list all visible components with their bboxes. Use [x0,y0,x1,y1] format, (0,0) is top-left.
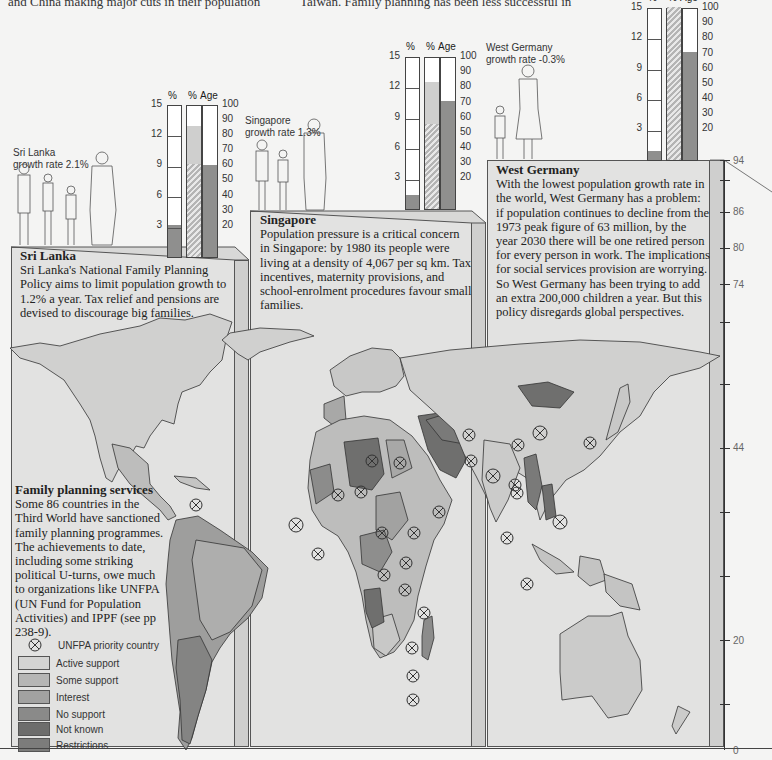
tick-20: 20 [460,171,471,182]
swatch [18,673,50,687]
tick-60: 60 [222,158,233,169]
tick-6: 6 [386,141,400,152]
legend-label: UNFPA priority country [58,640,159,651]
age-structure-bar [186,105,202,258]
tick-40: 40 [460,141,471,152]
tick-3: 3 [628,122,642,133]
life-expectancy-bar [202,105,218,258]
tick-40: 40 [222,189,233,200]
caption-body: Population pressure is a critical concer… [260,227,471,312]
scale-label-86: 86 [733,206,744,217]
caption-body: Some 86 countries in the Third World hav… [15,497,163,639]
swatch [18,707,50,721]
tick-60: 60 [702,62,713,73]
legend-label: No support [56,709,105,720]
tick-15: 15 [386,50,400,61]
col-header-age: Age [680,0,698,3]
caption-title: Family planning services [15,483,165,497]
tick-70: 70 [702,47,713,58]
caption-family-planning: Family planning services Some 86 countri… [15,483,165,639]
tick-20: 20 [222,219,233,230]
tick-80: 80 [702,31,713,42]
growth-bar [167,105,182,258]
chart-sri-lanka: % % Age 15 12 9 6 3 100 90 80 70 60 50 4… [148,90,238,250]
col-header-age: Age [438,41,456,52]
caption-sri-lanka: Sri Lanka Sri Lanka's National Family Pl… [20,249,232,320]
tick-15: 15 [628,1,642,12]
tick-100: 100 [460,50,477,61]
tick-100: 100 [702,1,719,12]
legend-restrictions: Restrictions [18,738,108,752]
legend-no-support: No support [18,707,105,721]
tick-9: 9 [386,111,400,122]
legend-label: Some support [56,675,118,686]
legend-not-known: Not known [18,722,103,736]
legend-label: Not known [56,724,103,735]
tick-80: 80 [222,128,233,139]
tick-70: 70 [222,143,233,154]
legend-some-support: Some support [18,673,118,687]
col-header-pct2: % [668,0,677,3]
label-sri-lanka: Sri Lanka growth rate 2.1% [13,147,89,171]
col-header-pct2: % [188,90,197,101]
life-expectancy-bar [440,57,456,210]
growth-bar [647,8,662,161]
col-header-age: Age [200,90,218,101]
tick-15: 15 [148,98,162,109]
country-name: West Germany [486,42,565,54]
west-germany-family-illustration [490,65,550,161]
caption-singapore: Singapore Population pressure is a criti… [260,213,472,312]
chart-west-germany: % % Age 15 12 9 6 3 100 90 80 70 60 50 4… [628,0,718,162]
tick-12: 12 [386,80,400,91]
swatch [18,690,50,704]
tick-6: 6 [148,189,162,200]
col-header-pct: % [168,90,177,101]
col-header-pct: % [648,0,657,3]
tick-90: 90 [702,16,713,27]
growth-rate: growth rate 2.1% [13,159,89,171]
tick-90: 90 [460,65,471,76]
baseline [0,748,772,749]
tick-60: 60 [460,111,471,122]
legend-interest: Interest [18,690,89,704]
tick-3: 3 [386,171,400,182]
scale-label-80: 80 [733,242,744,253]
legend-label: Active support [56,658,119,669]
growth-rate: growth rate 1.3% [245,127,321,139]
swatch [18,656,50,670]
country-name: Sri Lanka [13,147,89,159]
circled-x-icon [28,638,42,652]
growth-rate: growth rate -0.3% [486,54,565,66]
legend-label: Interest [56,692,89,703]
life-expectancy-bar [682,8,698,161]
caption-title: Sri Lanka [20,249,232,263]
label-west-germany: West Germany growth rate -0.3% [486,42,565,66]
col-header-pct: % [406,41,415,52]
tick-50: 50 [702,77,713,88]
tick-20: 20 [702,122,713,133]
age-structure-bar [666,8,682,161]
tick-3: 3 [148,219,162,230]
tick-30: 30 [460,156,471,167]
tick-12: 12 [628,31,642,42]
circled-x-icon [190,499,202,511]
growth-bar [405,57,420,210]
caption-body: Sri Lanka's National Family Planning Pol… [20,263,226,320]
tick-12: 12 [148,128,162,139]
label-singapore: Singapore growth rate 1.3% [245,115,321,139]
age-structure-bar [424,57,440,210]
scale-label-20: 20 [733,635,744,646]
swatch [18,722,50,736]
caption-title: West Germany [496,163,710,177]
tick-80: 80 [460,80,471,91]
tick-9: 9 [628,62,642,73]
caption-body: With the lowest population growth rate i… [496,177,710,319]
chart-singapore: % % Age 15 12 9 6 3 100 90 80 70 60 50 4… [386,41,476,211]
scale-label-44: 44 [733,442,744,453]
swatch [18,738,50,752]
tick-40: 40 [702,92,713,103]
scale-label-0: 0 [733,745,739,756]
tick-100: 100 [222,98,239,109]
tick-90: 90 [222,113,233,124]
tick-70: 70 [460,96,471,107]
